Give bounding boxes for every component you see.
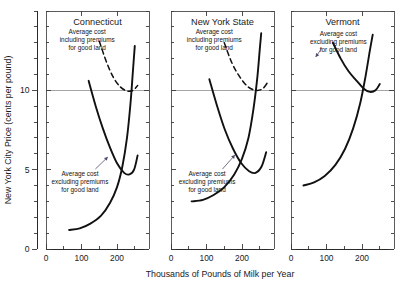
- y-tick-label: 5: [25, 165, 30, 175]
- annotation-line: including premiums: [187, 36, 242, 44]
- y-axis-title: New York City Price (cents per pound): [3, 56, 13, 205]
- chart-figure: 0510New York City Price (cents per pound…: [0, 0, 403, 287]
- y-tick-label: 0: [25, 244, 30, 254]
- annotation-connecticut-excluding: Average costexcluding premiumsfor good l…: [52, 170, 109, 194]
- annotation-new-york-state-including: Average costincluding premiumsfor good l…: [187, 28, 242, 52]
- annotation-new-york-state-excluding: Average costexcluding premiumsfor good l…: [179, 170, 236, 194]
- curve-average-cost-excluding-premiums: [209, 79, 266, 173]
- y-axis: 0510New York City Price (cents per pound…: [3, 11, 37, 254]
- annotation-line: Average cost: [196, 28, 233, 36]
- annotation-line: Average cost: [69, 28, 106, 36]
- x-tick-label: 200: [355, 253, 369, 263]
- panel-connecticut: 0100200ConnecticutAverage costincluding …: [44, 11, 149, 263]
- x-tick-label: 100: [320, 253, 334, 263]
- y-tick-label: 10: [20, 85, 30, 95]
- panel-title-connecticut: Connecticut: [73, 17, 122, 27]
- milk-cost-chart: 0510New York City Price (cents per pound…: [0, 0, 403, 287]
- annotation-line: excluding premiums: [310, 38, 367, 46]
- x-tick-label: 200: [235, 253, 249, 263]
- annotation-line: including premiums: [60, 36, 115, 44]
- annotation-line: excluding premiums: [52, 178, 109, 186]
- annotation-line: Average cost: [320, 30, 357, 38]
- panel-vermont: 0100200VermontAverage costexcluding prem…: [289, 11, 394, 263]
- x-tick-label: 100: [200, 253, 214, 263]
- annotation-connecticut-including: Average costincluding premiumsfor good l…: [60, 28, 115, 52]
- annotation-line: for good land: [61, 186, 99, 194]
- x-axis-title: Thousands of Pounds of Milk per Year: [146, 269, 295, 279]
- panel-title-vermont: Vermont: [325, 17, 360, 27]
- x-tick-label: 200: [110, 253, 124, 263]
- x-tick-label: 0: [44, 253, 49, 263]
- curve-marginal-cost: [303, 35, 372, 186]
- annotation-vermont-excluding: Average costexcluding premiumsfor good l…: [310, 30, 367, 54]
- annotation-line: Average cost: [188, 170, 225, 178]
- x-tick-label: 100: [75, 253, 89, 263]
- annotation-line: Average cost: [61, 170, 98, 178]
- curve-marginal-cost: [69, 46, 135, 230]
- x-tick-label: 0: [169, 253, 174, 263]
- x-tick-label: 0: [289, 253, 294, 263]
- panel-title-new-york-state: New York State: [191, 17, 254, 27]
- panel-new-york-state: 0100200New York StateAverage costincludi…: [169, 11, 274, 263]
